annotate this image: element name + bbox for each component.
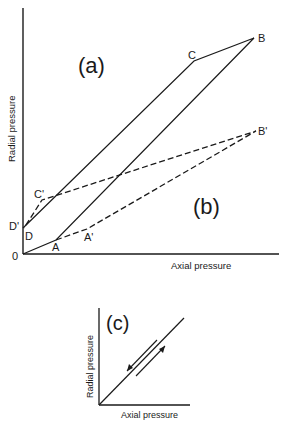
solid-path-a <box>23 38 254 254</box>
dashed-path-b <box>24 131 256 240</box>
inset-y-axis-label: Radial pressure <box>85 335 95 398</box>
point-label-c-prime: C' <box>34 188 44 200</box>
point-label-a-prime: A' <box>84 231 93 243</box>
y-axis-label: Radial pressure <box>6 95 17 162</box>
inset-x-axis-label: Axial pressure <box>121 410 178 420</box>
point-label-d-prime: D' <box>9 220 19 232</box>
point-label-b-prime: B' <box>258 125 267 137</box>
point-label-b: B <box>258 32 265 44</box>
inset-c: (c) Axial pressure Radial pressure <box>85 308 190 420</box>
point-label-c: C <box>188 49 196 61</box>
origin-label: 0 <box>12 250 18 262</box>
pressure-path-diagram: B C B' C' D' D A A' 0 (a) (b) Axial pres… <box>0 0 285 426</box>
point-label-a: A <box>52 241 60 253</box>
point-label-d: D <box>25 230 33 242</box>
panel-label-c: (c) <box>106 312 129 334</box>
panel-label-a: (a) <box>78 53 105 78</box>
x-axis-label: Axial pressure <box>171 260 231 271</box>
panel-label-b: (b) <box>193 194 220 219</box>
arrow-down-left <box>127 340 157 371</box>
